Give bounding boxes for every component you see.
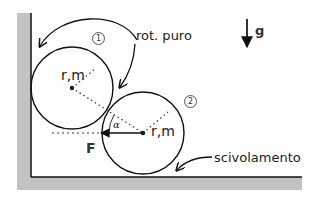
gravity-label: g <box>255 24 264 37</box>
wall <box>17 13 31 190</box>
rolling-annotation: rot. puro <box>136 29 192 42</box>
rolling-arrow-down <box>120 44 135 87</box>
rolling-arrow-top <box>40 19 137 46</box>
center-line <box>72 88 143 133</box>
disk-1-label: r,m <box>61 68 85 82</box>
physics-diagram: g r,m r,m 1 2 F α rot. puro scivolamento <box>0 0 317 197</box>
disk-2-label: r,m <box>151 124 175 138</box>
floor <box>17 177 302 190</box>
disk-1-badge: 1 <box>92 32 105 45</box>
sliding-annotation: scivolamento <box>214 151 301 164</box>
sliding-arrow <box>177 157 212 170</box>
force-label: F <box>86 141 96 155</box>
disk-2-badge: 2 <box>184 95 197 108</box>
angle-label: α <box>113 120 120 130</box>
